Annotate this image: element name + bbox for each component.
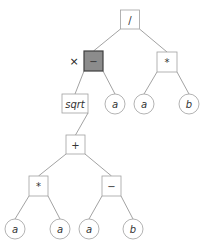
node-label: a <box>86 224 92 235</box>
node-label: b <box>130 224 136 235</box>
node-label: + <box>71 140 79 151</box>
edge-sub2-a5 <box>89 196 102 219</box>
node-div[interactable]: / <box>121 10 140 29</box>
node-label: a <box>12 224 18 235</box>
edge-div-mul1 <box>140 29 168 52</box>
node-label: − <box>89 56 97 67</box>
node-label: sqrt <box>65 99 86 110</box>
node-sub2[interactable]: − <box>102 176 121 196</box>
node-a4[interactable]: a <box>50 219 70 239</box>
node-a3[interactable]: a <box>5 219 25 239</box>
edge-mul1-b1 <box>177 72 189 94</box>
node-label: b <box>186 99 192 110</box>
node-label: a <box>57 224 63 235</box>
edge-sub1-a1 <box>103 71 115 94</box>
node-mul2[interactable]: * <box>29 176 48 196</box>
node-label: a <box>112 99 118 110</box>
node-a2[interactable]: a <box>134 94 154 114</box>
node-mul1[interactable]: * <box>157 52 177 72</box>
edge-mul1-a2 <box>144 72 157 94</box>
node-label: * <box>165 57 170 68</box>
node-b2[interactable]: b <box>123 219 143 239</box>
node-label: a <box>141 99 147 110</box>
node-a5[interactable]: a <box>79 219 99 239</box>
node-sub1[interactable]: − <box>84 51 103 71</box>
node-add[interactable]: + <box>66 135 85 154</box>
expression-tree-diagram: /−*sqrtaab+*−aaab × <box>0 0 209 251</box>
edge-mul2-a3 <box>15 196 29 219</box>
edge-sub1-sqrt <box>75 71 84 94</box>
edge-mul2-a4 <box>48 196 60 219</box>
edge-div-sub1 <box>94 29 121 51</box>
edge-sqrt-add <box>76 113 89 135</box>
cross-marker-icon: × <box>69 55 78 68</box>
node-a1[interactable]: a <box>105 94 125 114</box>
node-sqrt[interactable]: sqrt <box>62 94 88 113</box>
edge-add-mul2 <box>39 154 67 176</box>
node-label: − <box>107 181 115 192</box>
node-b1[interactable]: b <box>179 94 199 114</box>
edge-sub2-b2 <box>121 196 133 219</box>
edge-add-sub2 <box>85 154 112 176</box>
node-label: * <box>36 181 41 192</box>
